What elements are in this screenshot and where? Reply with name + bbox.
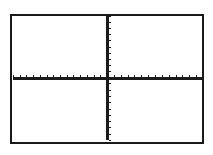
y-tick	[109, 59, 111, 60]
y-tick	[109, 65, 111, 66]
y-tick	[109, 83, 111, 84]
x-tick	[100, 75, 101, 77]
graph-axes	[0, 0, 213, 155]
x-tick	[26, 75, 27, 77]
x-tick	[196, 75, 197, 77]
x-tick	[60, 75, 61, 77]
x-tick	[20, 75, 21, 77]
x-tick	[134, 75, 135, 77]
x-tick	[155, 75, 156, 77]
x-tick	[47, 75, 48, 77]
y-tick	[109, 47, 111, 48]
x-tick	[169, 75, 170, 77]
y-tick	[109, 140, 111, 141]
y-tick	[109, 96, 111, 97]
y-tick	[109, 22, 111, 23]
y-axis-line	[106, 16, 109, 140]
x-tick	[189, 75, 190, 77]
x-tick	[94, 75, 95, 77]
y-tick	[109, 102, 111, 103]
y-tick	[109, 34, 111, 35]
x-tick	[114, 75, 115, 77]
x-tick	[67, 75, 68, 77]
y-tick	[109, 121, 111, 122]
y-tick	[109, 134, 111, 135]
x-tick	[87, 75, 88, 77]
x-tick	[182, 75, 183, 77]
x-tick	[148, 75, 149, 77]
x-tick	[80, 75, 81, 77]
y-tick	[109, 16, 111, 17]
x-tick	[40, 75, 41, 77]
x-tick	[203, 75, 204, 77]
y-tick	[109, 40, 111, 41]
x-tick	[128, 75, 129, 77]
x-tick	[73, 75, 74, 77]
x-tick	[121, 75, 122, 77]
x-tick	[33, 75, 34, 77]
y-tick	[109, 127, 111, 128]
y-tick	[109, 109, 111, 110]
y-tick	[109, 115, 111, 116]
x-tick	[141, 75, 142, 77]
x-tick	[13, 75, 14, 77]
x-tick	[176, 75, 177, 77]
y-tick	[109, 71, 111, 72]
x-tick	[162, 75, 163, 77]
y-tick	[109, 53, 111, 54]
y-tick	[109, 90, 111, 91]
x-tick	[53, 75, 54, 77]
y-tick	[109, 28, 111, 29]
